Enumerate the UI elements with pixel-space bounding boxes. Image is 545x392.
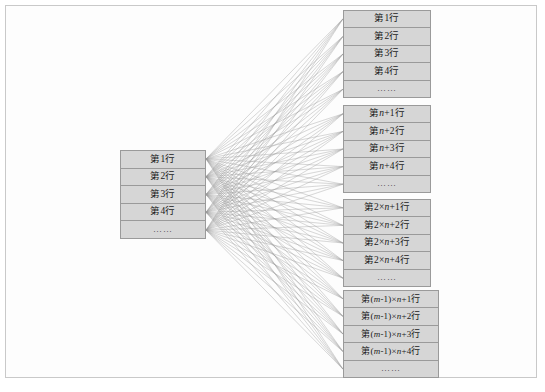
target-block-3: 第2×n+1行 第2×n+2行 第2×n+3行 第2×n+4行 …… [343, 199, 431, 287]
target-row: 第2×n+1行 [344, 200, 430, 217]
target-row: 第n+1行 [344, 106, 430, 123]
target-row: 第2×n+3行 [344, 235, 430, 252]
target-row: 第4行 [344, 63, 430, 80]
target-row: 第(m-1)×n+3行 [344, 326, 438, 343]
target-row-ellipsis: …… [344, 81, 430, 97]
target-row-ellipsis: …… [344, 361, 438, 377]
target-row: 第2×n+4行 [344, 252, 430, 269]
target-row: 第2×n+2行 [344, 217, 430, 234]
target-row: 第(m-1)×n+2行 [344, 308, 438, 325]
target-row: 第(m-1)×n+1行 [344, 291, 438, 308]
target-row: 第(m-1)×n+4行 [344, 343, 438, 360]
target-block-4: 第(m-1)×n+1行 第(m-1)×n+2行 第(m-1)×n+3行 第(m-… [343, 290, 439, 378]
target-row: 第n+3行 [344, 141, 430, 158]
target-block-1: 第1行 第2行 第3行 第4行 …… [343, 10, 431, 98]
target-row: 第2行 [344, 28, 430, 45]
source-row: 第2行 [121, 169, 205, 187]
source-row-ellipsis: …… [121, 221, 205, 238]
diagram-canvas: 第1行 第2行 第3行 第4行 …… 第1行 第2行 第3行 第4行 …… 第n… [0, 0, 545, 392]
target-row: 第1行 [344, 11, 430, 28]
target-row: 第3行 [344, 46, 430, 63]
target-block-2: 第n+1行 第n+2行 第n+3行 第n+4行 …… [343, 105, 431, 193]
source-rows-block: 第1行 第2行 第3行 第4行 …… [120, 150, 206, 239]
target-row: 第n+4行 [344, 158, 430, 175]
target-row-ellipsis: …… [344, 176, 430, 192]
source-row: 第1行 [121, 151, 205, 169]
source-row: 第3行 [121, 186, 205, 204]
source-row: 第4行 [121, 204, 205, 222]
target-row: 第n+2行 [344, 123, 430, 140]
target-row-ellipsis: …… [344, 270, 430, 286]
diagram-frame [5, 5, 537, 378]
